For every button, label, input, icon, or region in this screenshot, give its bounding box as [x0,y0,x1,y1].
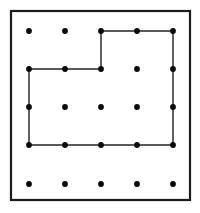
grid-dot-c3-r0 [134,28,140,34]
grid-dot-c4-r4 [170,181,176,187]
grid-dot-c2-r4 [98,181,104,187]
grid-dot-c2-r3 [98,142,104,148]
grid-dot-c3-r3 [134,142,140,148]
geoboard-figure [0,0,200,213]
grid-dot-c4-r3 [170,142,176,148]
grid-dot-c4-r2 [170,104,176,110]
grid-dot-c4-r1 [170,66,176,72]
grid-dot-c1-r3 [62,142,68,148]
grid-dot-c1-r2 [62,104,68,110]
grid-dot-c3-r1 [134,66,140,72]
figure-canvas [0,0,200,213]
grid-dot-c3-r4 [134,181,140,187]
grid-dot-c1-r4 [62,181,68,187]
grid-dot-c0-r0 [26,28,32,34]
grid-dot-c4-r0 [170,28,176,34]
grid-dot-c0-r1 [26,66,32,72]
grid-dot-c2-r2 [98,104,104,110]
grid-dot-c3-r2 [134,104,140,110]
grid-dot-c1-r1 [62,66,68,72]
grid-dot-c1-r0 [62,28,68,34]
grid-dot-c2-r0 [98,28,104,34]
grid-dot-c0-r3 [26,142,32,148]
grid-dot-c2-r1 [98,66,104,72]
grid-dot-c0-r2 [26,104,32,110]
grid-dot-c0-r4 [26,181,32,187]
